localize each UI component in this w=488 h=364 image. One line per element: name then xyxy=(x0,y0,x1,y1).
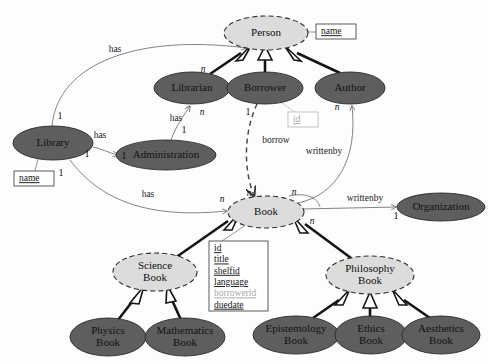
cardinality-card-admin-librarian-1: 1 xyxy=(182,124,187,135)
attribute-item-duedate: duedate xyxy=(214,300,244,310)
class-node-philosophybook[interactable]: PhilosophyBook xyxy=(326,256,414,294)
association-label-library-has-book: has xyxy=(142,189,155,199)
class-node-label-ethicsbook: Ethics xyxy=(357,322,385,334)
gen-line-author-person xyxy=(297,53,340,73)
class-node-administration[interactable]: Administration xyxy=(116,140,216,170)
class-node-label-aestheticsbook: Book xyxy=(429,334,453,346)
class-node-physicsbook[interactable]: PhysicsBook xyxy=(70,318,146,356)
association-edges xyxy=(52,44,396,212)
attribute-item-borrowerid: borrowerid xyxy=(214,288,256,298)
class-node-label-epistemologybook: Book xyxy=(284,334,308,346)
cardinality-card-author-book-n: n xyxy=(335,102,340,112)
association-label-book-writtenby-organization: writtenby xyxy=(347,193,384,203)
class-node-label-book: Book xyxy=(254,205,278,217)
gen-line-librarian-person xyxy=(210,53,241,74)
class-node-label-ethicsbook: Book xyxy=(359,334,383,346)
cardinality-card-book-author-n: n xyxy=(292,187,297,197)
attribute-box-book-attrs[interactable]: idtitleshelfidlanguageborroweridduedate xyxy=(209,241,268,311)
class-node-label-epistemologybook: Epistemology xyxy=(265,322,327,334)
association-label-library-has-administration: has xyxy=(94,130,107,140)
cardinality-card-borrower-book-1: 1 xyxy=(246,106,251,117)
class-node-organization[interactable]: Organization xyxy=(397,193,485,221)
class-node-label-organization: Organization xyxy=(412,200,470,212)
cardinality-card-library-admin-1: 1 xyxy=(85,148,90,159)
class-node-label-philosophybook: Philosophy xyxy=(345,262,395,274)
attribute-box-borrower-id[interactable]: id xyxy=(288,112,318,127)
class-node-label-person: Person xyxy=(251,26,281,38)
class-node-label-physicsbook: Book xyxy=(96,336,120,348)
class-node-librarian[interactable]: Librarian xyxy=(154,72,230,104)
class-node-label-borrower: Borrower xyxy=(244,81,286,93)
class-node-label-author: Author xyxy=(334,81,366,93)
attribute-item-name: name xyxy=(321,26,342,36)
association-label-administration-has-librarian: has xyxy=(170,113,183,123)
edge-borrower-borrow-book xyxy=(246,104,257,196)
class-node-label-librarian: Librarian xyxy=(172,81,213,93)
class-node-label-library: Library xyxy=(37,136,70,148)
stub-library-name xyxy=(35,159,38,171)
attribute-box-library-name[interactable]: name xyxy=(14,171,54,186)
cardinality-card-book-org-n: n xyxy=(310,216,315,226)
class-node-label-sciencebook: Book xyxy=(143,271,167,283)
association-label-borrower-borrow-book: borrow xyxy=(262,135,290,145)
cardinality-card-library-librarian-1: 1 xyxy=(58,110,63,121)
attribute-item-shelfid: shelfid xyxy=(214,266,240,276)
attribute-box-person-name[interactable]: name xyxy=(316,24,356,39)
gen-line-philosophybook-book xyxy=(305,224,355,261)
cardinality-card-book-borrower-n: n xyxy=(247,188,252,198)
gen-line-aesthetics-philosophy xyxy=(404,300,430,318)
cardinality-card-book-library-n: n xyxy=(220,194,225,204)
gen-triangle-epistemology-philosophy xyxy=(335,289,350,305)
class-node-ethicsbook[interactable]: EthicsBook xyxy=(335,316,407,354)
association-label-book-writtenby-author: writtenby xyxy=(306,146,343,156)
class-node-label-sciencebook: Science xyxy=(138,259,172,271)
cardinality-card-library-book-1: 1 xyxy=(59,167,64,178)
cardinality-card-org-book-1: 1 xyxy=(394,210,399,221)
class-node-aestheticsbook[interactable]: AestheticsBook xyxy=(402,316,480,354)
attribute-item-id: id xyxy=(293,114,301,124)
class-node-label-administration: Administration xyxy=(133,148,200,160)
class-node-label-mathbook: Book xyxy=(173,336,197,348)
class-node-label-aestheticsbook: Aesthetics xyxy=(418,322,464,334)
gen-line-epistemology-philosophy xyxy=(313,300,339,318)
class-node-label-philosophybook: Book xyxy=(358,274,382,286)
association-labels: hashashashasborrowwrittenbywrittenby xyxy=(94,44,384,203)
class-node-author[interactable]: Author xyxy=(315,72,385,104)
cardinality-card-librarian-library-n: n xyxy=(201,64,206,74)
class-node-epistemologybook[interactable]: EpistemologyBook xyxy=(253,316,339,354)
class-node-borrower[interactable]: Borrower xyxy=(227,72,303,104)
class-node-label-mathbook: Mathematics xyxy=(157,324,214,336)
class-node-book[interactable]: Book xyxy=(228,196,304,228)
class-node-person[interactable]: Person xyxy=(224,16,308,50)
class-diagram-canvas: nameidnameidtitleshelfidlanguageborrower… xyxy=(0,0,488,364)
edge-library-has-administration xyxy=(93,147,118,155)
attribute-item-id: id xyxy=(214,243,222,253)
class-node-label-physicsbook: Physics xyxy=(91,324,125,336)
gen-line-math-science xyxy=(172,300,181,320)
attribute-item-language: language xyxy=(214,277,248,287)
association-label-library-has-librarian: has xyxy=(109,44,122,54)
class-node-sciencebook[interactable]: ScienceBook xyxy=(113,253,197,291)
edge-book-writtenby-organization xyxy=(302,207,396,209)
class-node-library[interactable]: Library xyxy=(13,126,93,160)
class-node-mathbook[interactable]: MathematicsBook xyxy=(145,318,225,356)
cardinality-card-admin-library-1: 1 xyxy=(122,150,127,161)
attribute-item-title: title xyxy=(214,254,229,264)
cardinality-card-librarian-admin-n: n xyxy=(200,107,205,117)
attribute-item-name: name xyxy=(19,173,40,183)
